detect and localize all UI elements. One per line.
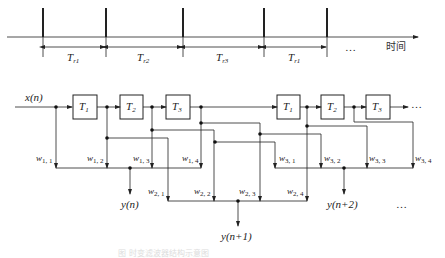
delay-box-t3-second: T3 (372, 101, 382, 114)
figure-caption: 图 时变滤波器结构示意图 (118, 250, 209, 258)
delay-box-t1-second: T1 (283, 101, 293, 114)
weight-w13: w1, 3 (133, 154, 150, 165)
time-axis-label: 时间 (386, 42, 406, 52)
weight-w24: w2, 4 (287, 187, 304, 198)
output-ellipsis: … (396, 199, 407, 210)
delay-box-t3: T3 (172, 101, 182, 114)
weight-w14: w1, 4 (182, 154, 199, 165)
delay-box-t2: T2 (126, 101, 136, 114)
interval-label-1: Tr1 (67, 52, 79, 65)
interval-label-4: Tr1 (288, 52, 300, 65)
diagram-root: Tr1 Tr2 Tr3 Tr1 … 时间 x(n) T1 T2 T3 T1 T2… (0, 0, 445, 258)
output-y-n2: y(n+2) (327, 199, 358, 210)
weight-w32: w3, 2 (324, 154, 341, 165)
weight-w33: w3, 3 (369, 154, 386, 165)
weight-w34: w3, 4 (415, 154, 432, 165)
signal-ellipsis: … (411, 99, 422, 110)
weight-w23: w2, 3 (239, 187, 256, 198)
interval-label-3: Tr3 (216, 52, 228, 65)
weight-w21: w2, 1 (148, 187, 165, 198)
delay-box-t1: T1 (79, 101, 89, 114)
input-label: x(n) (25, 92, 43, 103)
diagram-lines (0, 0, 445, 258)
output-y-n: y(n) (121, 199, 139, 210)
timeline-ellipsis: … (345, 42, 356, 53)
weight-w11: w1, 1 (36, 154, 53, 165)
weight-w12: w1, 2 (87, 154, 104, 165)
interval-label-2: Tr2 (137, 52, 149, 65)
weight-w22: w2, 2 (194, 187, 211, 198)
output-y-n1: y(n+1) (221, 231, 252, 242)
delay-box-t2-second: T2 (327, 101, 337, 114)
weight-w31: w3, 1 (279, 154, 296, 165)
